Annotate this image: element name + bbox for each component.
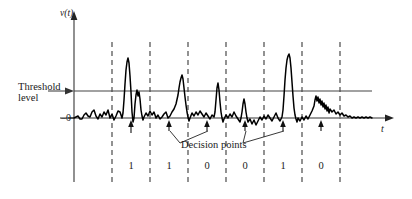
- decision-point-arrow: [280, 120, 286, 131]
- bit-label: 0: [315, 160, 327, 171]
- decision-points-label: Decision points: [181, 139, 247, 150]
- bit-label: 0: [239, 160, 251, 171]
- bit-label: 1: [125, 160, 137, 171]
- x-axis-label: t: [381, 124, 384, 135]
- t-axis-arrowhead: [385, 114, 394, 121]
- y-axis-label: v(t): [60, 8, 73, 18]
- decision-point-arrow: [318, 120, 324, 131]
- signal-waveform: [74, 54, 372, 125]
- leader-line-1: [170, 131, 180, 143]
- threshold-level-label-line1: Threshold: [18, 81, 61, 92]
- bit-interval-dashed-lines: [112, 42, 340, 182]
- bit-label: 0: [201, 160, 213, 171]
- bit-label: 1: [163, 160, 175, 171]
- bit-label: 1: [277, 160, 289, 171]
- threshold-level-label-line2: level: [18, 92, 38, 103]
- threshold-level-label: Thresholdlevel: [18, 81, 61, 104]
- decision-point-arrow: [204, 120, 210, 131]
- signal-waveform-figure: Thresholdlevel v(t) –0 t Decision points…: [0, 0, 412, 199]
- zero-label: –0: [61, 113, 71, 124]
- decision-point-arrow: [166, 120, 172, 131]
- decision-point-arrow: [242, 120, 248, 131]
- threshold-leader-arrowhead: [65, 88, 74, 95]
